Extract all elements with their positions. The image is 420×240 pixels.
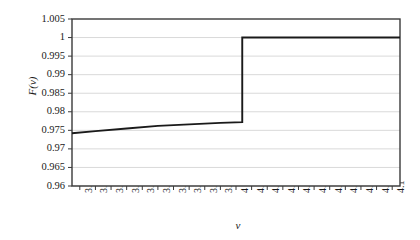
plot-background <box>72 19 400 186</box>
chart-figure: F(v) v 0.960.9650.970.9750.980.9850.990.… <box>0 0 420 240</box>
plot-canvas <box>0 0 420 240</box>
